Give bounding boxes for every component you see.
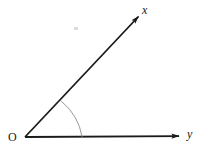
ray-x-label: x bbox=[142, 4, 147, 16]
ray-y-label: y bbox=[187, 128, 192, 140]
angle-diagram-canvas bbox=[0, 0, 211, 153]
ray-x-line bbox=[25, 17, 139, 138]
vertex-label-o: O bbox=[8, 131, 17, 143]
angle-diagram-figure: x y O bbox=[0, 0, 211, 153]
ray-y-line bbox=[25, 136, 179, 137]
stray-speck-artifact bbox=[74, 27, 78, 30]
angle-arc bbox=[61, 101, 82, 136]
